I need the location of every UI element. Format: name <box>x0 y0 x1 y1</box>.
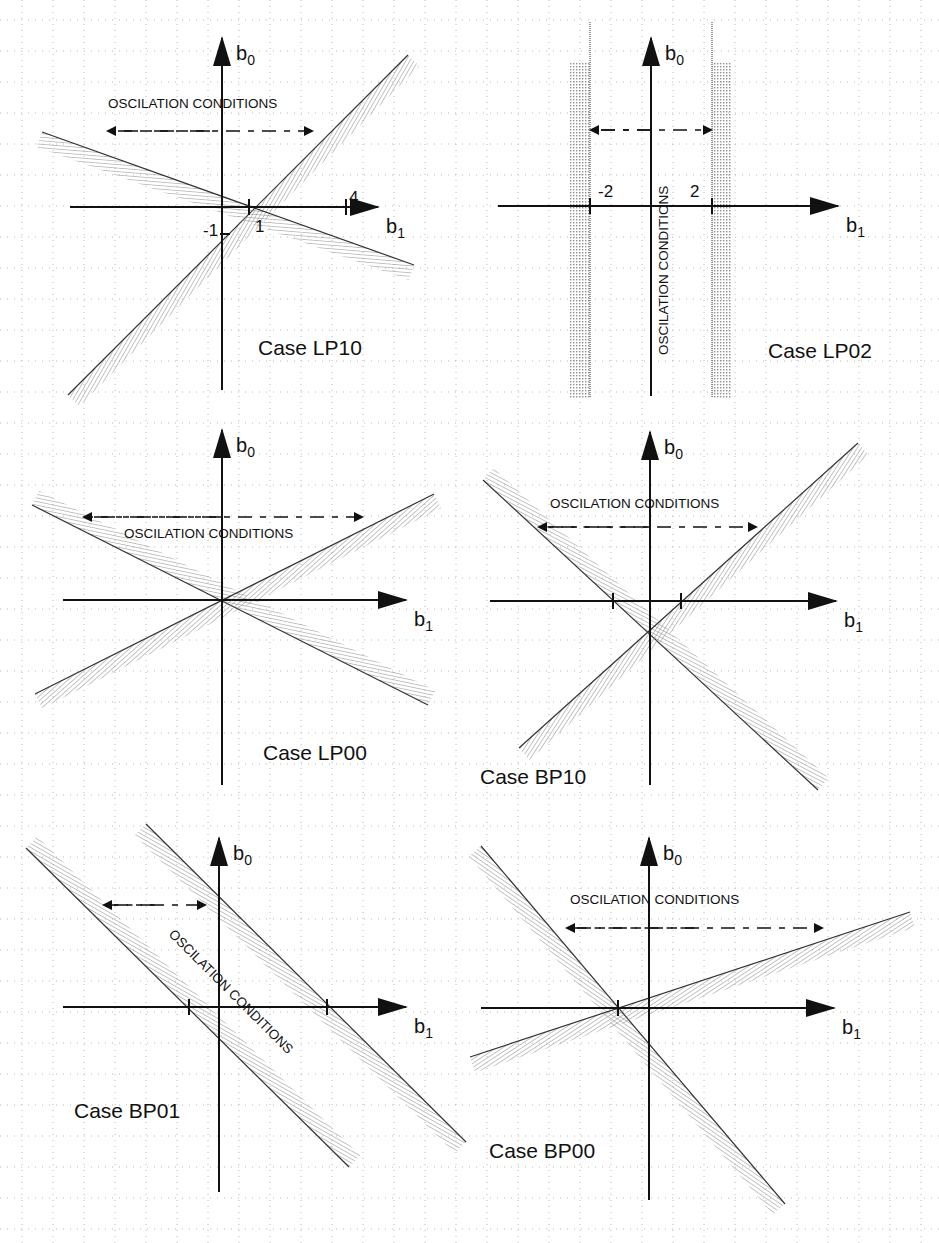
b1-axis-label: b1 <box>844 609 863 635</box>
b0-axis-label: b0 <box>233 842 252 868</box>
case-label: Case LP02 <box>768 339 872 362</box>
b0-axis-label: b0 <box>665 42 684 68</box>
tick-label: -1 <box>203 221 218 240</box>
tick-label: 4 <box>349 188 358 207</box>
b1-axis-label: b1 <box>414 1015 433 1041</box>
tick-label: -2 <box>598 182 613 201</box>
b1-axis-label: b1 <box>386 215 405 241</box>
boundary-line <box>519 443 858 748</box>
panels: b0b114-1OSCILATION CONDITIONSCase LP10b0… <box>26 22 915 1214</box>
panel-case-lp10: b0b114-1OSCILATION CONDITIONSCase LP10 <box>37 38 420 406</box>
b1-axis-label: b1 <box>842 1016 861 1042</box>
oscillation-conditions-label: OSCILATION CONDITIONS <box>108 96 277 111</box>
b0-axis-label: b0 <box>236 42 255 68</box>
b1-axis-label: b1 <box>414 608 433 634</box>
panel-case-lp02: b0b1-22OSCILATION CONDITIONSCase LP02 <box>498 22 872 398</box>
background-grid <box>0 0 939 1243</box>
case-label: Case BP01 <box>74 1099 180 1122</box>
b1-axis-label: b1 <box>846 214 865 240</box>
oscillation-conditions-label: OSCILATION CONDITIONS <box>124 526 293 541</box>
stability-band <box>570 62 590 398</box>
panel-case-bp00: b0b1OSCILATION CONDITIONSCase BP00 <box>469 838 915 1214</box>
oscillation-conditions-label: OSCILATION CONDITIONS <box>570 892 739 907</box>
case-label: Case BP00 <box>489 1139 595 1162</box>
tick-label: 2 <box>690 182 699 201</box>
case-label: Case BP10 <box>480 765 586 788</box>
panel-case-bp10: b0b1OSCILATION CONDITIONSCase BP10 <box>480 432 869 790</box>
b0-axis-label: b0 <box>664 436 683 462</box>
tick-label: 1 <box>255 217 264 236</box>
oscillation-conditions-label: OSCILATION CONDITIONS <box>550 496 719 511</box>
case-label: Case LP10 <box>258 336 362 359</box>
case-label: Case LP00 <box>263 741 367 764</box>
oscillation-conditions-label: OSCILATION CONDITIONS <box>656 186 671 355</box>
oscillation-conditions-figure: b0b114-1OSCILATION CONDITIONSCase LP10b0… <box>0 0 939 1243</box>
boundary-line <box>146 824 466 1142</box>
panel-case-bp01: b0b1OSCILATION CONDITIONSCase BP01 <box>26 824 466 1192</box>
panel-case-lp00: b0b1OSCILATION CONDITIONSCase LP00 <box>32 430 441 785</box>
stability-band <box>712 62 732 398</box>
